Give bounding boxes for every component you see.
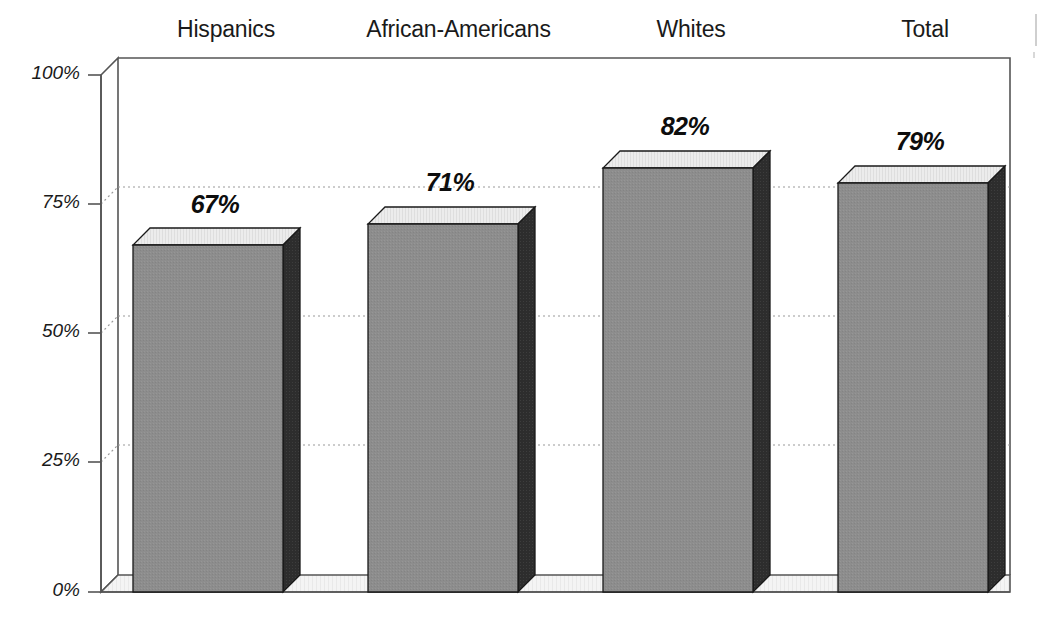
bar-hispanics [133,228,300,592]
category-label-total: Total [845,16,1005,43]
category-label-whites: Whites [611,16,771,43]
y-tick-label-0: 0% [0,579,80,601]
page-edge-artifact [1034,14,1036,58]
bar-chart: 100% 75% 50% 25% 0% Hispanics African-Am… [0,0,1043,620]
value-label-hispanics: 67% [135,190,295,219]
bar-african-americans [368,207,535,592]
y-axis [88,75,101,592]
value-label-whites: 82% [605,112,765,141]
bar-whites [603,151,770,592]
y-tick-label-25: 25% [0,449,80,471]
chart-canvas [0,0,1043,620]
y-tick-label-50: 50% [0,320,80,342]
bar-total [838,166,1005,592]
value-label-african-americans: 71% [370,168,530,197]
y-tick-label-100: 100% [0,62,80,84]
value-label-total: 79% [840,127,1000,156]
category-label-african-americans: African-Americans [331,16,586,43]
category-label-hispanics: Hispanics [136,16,316,43]
y-tick-label-75: 75% [0,191,80,213]
